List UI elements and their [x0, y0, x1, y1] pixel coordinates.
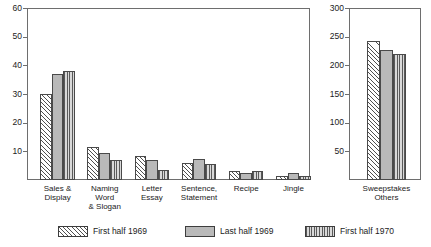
bar	[299, 176, 311, 180]
bar	[99, 153, 111, 180]
y-axis-tick	[23, 151, 28, 152]
main-bar-chart-panel: 102030405060Sales & DisplayNaming Word &…	[27, 0, 312, 215]
y-axis-tick-label: 30	[0, 90, 22, 99]
y-axis-tick-label: 20	[0, 118, 22, 127]
y-axis-tick	[23, 123, 28, 124]
bar	[380, 50, 393, 180]
legend-label: First half 1970	[340, 227, 394, 236]
bar	[229, 171, 241, 180]
legend-item: Last half 1969	[185, 226, 273, 237]
y-axis-tick-label: 10	[0, 147, 22, 156]
bar	[393, 54, 406, 180]
y-axis-tick	[345, 8, 350, 9]
y-axis-tick	[23, 94, 28, 95]
y-axis-tick	[345, 123, 350, 124]
bar	[367, 41, 380, 180]
y-axis-tick-label: 150	[319, 90, 344, 99]
figure: 102030405060Sales & DisplayNaming Word &…	[0, 0, 431, 247]
y-axis-tick-label: 50	[0, 32, 22, 41]
y-axis-tick-label: 100	[319, 118, 344, 127]
y-axis-tick	[345, 151, 350, 152]
legend-swatch-icon	[58, 226, 88, 237]
side-bar-chart-panel: 50100150200250300Sweepstakes Others	[349, 0, 423, 215]
bar	[182, 163, 194, 180]
bar	[135, 156, 147, 180]
legend-swatch-icon	[305, 226, 335, 237]
bar	[87, 147, 99, 180]
y-axis-tick-label: 250	[319, 32, 344, 41]
bar	[193, 159, 205, 181]
bar	[205, 164, 217, 180]
y-axis-tick-label: 60	[0, 4, 22, 13]
y-axis-tick-label: 300	[319, 4, 344, 13]
legend-item: First half 1969	[58, 226, 147, 237]
bar	[146, 160, 158, 180]
y-axis-tick	[345, 37, 350, 38]
y-axis-tick	[23, 65, 28, 66]
bar	[240, 173, 252, 180]
y-axis-tick	[345, 94, 350, 95]
bar	[288, 173, 300, 180]
y-axis-tick	[23, 37, 28, 38]
y-axis-tick	[23, 8, 28, 9]
x-axis-category-label: Sweepstakes Others	[352, 184, 420, 202]
chart-legend: First half 1969Last half 1969First half …	[0, 222, 431, 244]
y-axis-tick	[345, 65, 350, 66]
bar	[158, 170, 170, 180]
legend-item: First half 1970	[305, 226, 394, 237]
bar	[40, 94, 52, 180]
y-axis-tick-label: 200	[319, 61, 344, 70]
legend-label: First half 1969	[93, 227, 147, 236]
y-axis-tick-label: 40	[0, 61, 22, 70]
bar	[252, 171, 264, 180]
legend-label: Last half 1969	[220, 227, 273, 236]
bar	[276, 176, 288, 180]
bar	[52, 74, 64, 180]
y-axis-tick-label: 50	[319, 147, 344, 156]
x-axis-category-label: Jingle	[259, 184, 327, 193]
bar	[110, 160, 122, 180]
legend-swatch-icon	[185, 226, 215, 237]
bar	[63, 71, 75, 180]
